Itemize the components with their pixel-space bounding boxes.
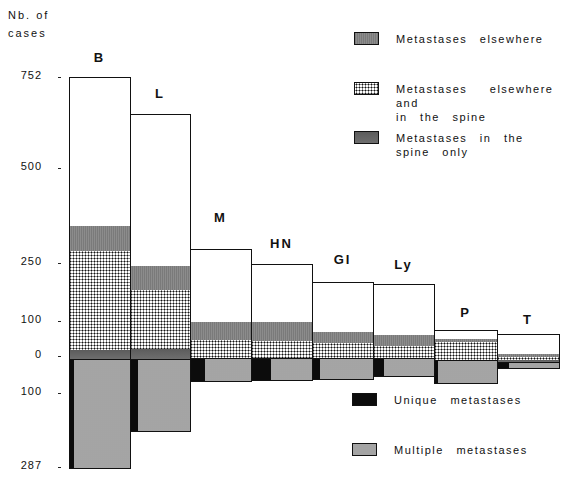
category-label: HN [251,236,312,251]
bar-segment-multiple [138,359,190,431]
y-tick-mark [58,168,61,169]
bar-segment-both [312,343,373,358]
bar-segment-elsewhere [312,332,373,343]
y-axis-title-line2: cases [8,27,47,39]
bar-segment-white [312,282,373,332]
bar-segment-both [434,342,497,360]
y-tick-label: 500 [2,160,42,172]
bar-segment-multiple [271,358,312,380]
y-tick-label: 287 [2,459,42,471]
y-tick-mark [58,263,61,264]
y-axis-title-line1: Nb. of [8,9,49,21]
bar-segment-elsewhere [69,226,130,251]
bar-segment-unique [190,358,205,381]
y-tick-label: 100 [2,313,42,325]
bar-segment-elsewhere [373,335,434,346]
bar-segment-unique [497,362,509,368]
y-tick-mark [58,77,61,78]
bar-segment-multiple [320,358,373,379]
y-tick-mark [58,356,61,357]
category-label: Ly [373,257,434,272]
bar-segment-multiple [509,362,559,368]
y-tick-label: 752 [2,69,42,81]
bar-segment-multiple [205,358,251,381]
bar-segment-white [130,114,190,266]
legend-swatch-both [354,82,379,95]
legend-label: Metastases elsewhere andin the spine [396,82,588,124]
y-tick-label: 0 [2,348,42,360]
y-tick-label: 250 [2,255,42,267]
bar-segment-both [251,341,312,358]
legend-swatch-multiple [352,443,377,456]
bar-segment-white [251,264,312,322]
bar-segment-both [373,346,434,358]
y-tick-mark [58,321,61,322]
bar-segment-both [130,290,190,349]
bar-segment-multiple [74,359,130,468]
legend-label: Unique metastases [394,393,522,407]
y-tick-label: 100 [2,385,42,397]
bar-segment-white [373,284,434,335]
legend-swatch-unique [352,393,377,406]
y-tick-mark [58,393,61,394]
bar-segment-white [434,330,497,339]
bar-segment-elsewhere [190,322,251,340]
bar-segment-both [69,251,130,350]
legend-label: Metastases in thespine only [396,131,524,159]
bar-segment-spine [130,349,190,359]
legend-swatch-spine [354,131,379,144]
legend-label: Metastases elsewhere [396,32,543,46]
bar-segment-unique [312,358,320,379]
bar-segment-white [190,249,251,322]
legend-swatch-elsewhere [354,32,379,45]
bar-segment-white [69,77,130,226]
bar-segment-multiple [438,360,497,383]
bar-segment-unique [130,359,138,431]
bar-segment-unique [251,358,271,380]
bar-segment-unique [373,358,384,376]
bar-segment-both [190,340,251,358]
bar-segment-elsewhere [251,322,312,341]
category-label: P [434,305,497,320]
category-label: B [69,50,130,65]
bar-segment-multiple [384,358,434,376]
bar-segment-elsewhere [130,266,190,290]
bar-segment-white [497,334,559,354]
y-tick-mark [58,467,61,468]
legend-label: Multiple metastases [394,443,528,457]
category-label: M [190,210,251,225]
category-label: L [130,86,190,101]
category-label: GI [312,252,373,267]
bar-segment-spine [69,350,130,359]
category-label: T [497,312,559,327]
